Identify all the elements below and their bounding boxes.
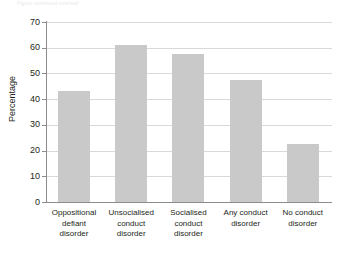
x-axis-category-label-line: disorder [102,229,160,240]
y-axis-tick-label-wrap: 60 [8,43,40,52]
y-axis-tick-label-wrap: 0 [8,198,40,207]
caption-fragment: Figure continued overleaf [17,0,137,7]
gridline [47,22,332,23]
x-axis-category-label: Socialisedconductdisorder [159,208,217,240]
x-axis-category-label-line: Socialised [159,208,217,219]
y-axis-tick-label: 20 [14,146,40,155]
gridline [47,48,332,49]
y-axis-tick-label-wrap: 70 [8,18,40,27]
bar [115,45,147,202]
y-axis-tick-label: 40 [14,95,40,104]
x-axis-category-label: Unsocialisedconductdisorder [102,208,160,240]
x-axis-category-label-line: disorder [159,229,217,240]
x-axis-category-label-line: disorder [274,219,332,230]
y-axis-tick-label: 70 [14,18,40,27]
x-axis-category-label-line: conduct [102,219,160,230]
y-axis-tick-label: 30 [14,120,40,129]
x-axis-category-label: Any conductdisorder [217,208,275,229]
bar [230,80,262,202]
y-axis-tick-label: 50 [14,69,40,78]
x-axis-category-label-line: Oppositional [45,208,103,219]
x-axis-category-label-line: Unsocialised [102,208,160,219]
x-axis-category-label-line: disorder [217,219,275,230]
y-axis-tick-label: 60 [14,43,40,52]
x-axis-category-label: No conductdisorder [274,208,332,229]
bar-chart: Figure continued overleaf 01020304050607… [0,0,347,259]
x-axis-category-label-line: conduct [159,219,217,230]
bar [287,144,319,202]
y-axis-line [46,21,47,203]
bar [58,91,90,202]
y-axis-tick-label: 0 [14,198,40,207]
x-axis-category-label-line: No conduct [274,208,332,219]
x-axis-category-label-line: defiant [45,219,103,230]
bar [172,54,204,202]
x-axis-category-label-line: disorder [45,229,103,240]
y-axis-tick-label-wrap: 20 [8,146,40,155]
y-axis-tick-label: 10 [14,172,40,181]
y-axis-title: Percentage [7,54,17,144]
x-axis-category-label: Oppositionaldefiantdisorder [45,208,103,240]
y-axis-tick-label-wrap: 10 [8,172,40,181]
x-axis-category-label-line: Any conduct [217,208,275,219]
x-axis-line [46,202,332,203]
